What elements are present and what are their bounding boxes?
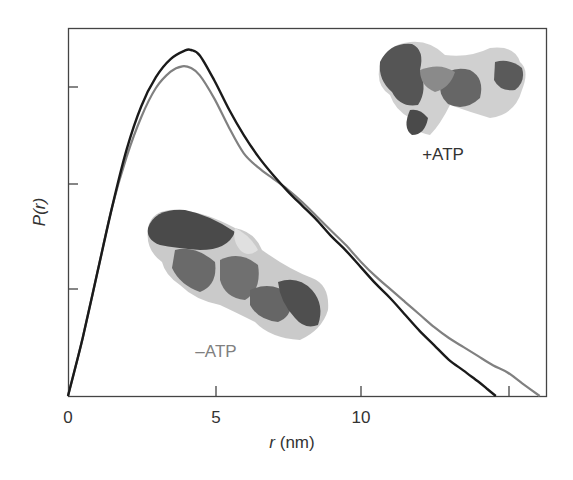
minus-atp-annotation: –ATP: [195, 342, 236, 361]
x-tick-label-0: 0: [63, 408, 72, 427]
minus-atp-molecule-image: [148, 210, 329, 340]
y-axis-ticks: [68, 87, 78, 289]
x-axis-label: r (nm): [269, 433, 314, 452]
pr-distribution-chart: 0 5 10 r (nm) P(r) +ATP –ATP: [0, 0, 573, 480]
y-axis-label: P(r): [30, 198, 49, 226]
plus-atp-annotation: +ATP: [422, 145, 464, 164]
x-axis-label-unit: (nm): [275, 433, 315, 452]
plus-atp-molecule-image: [379, 42, 526, 135]
x-tick-label-5: 5: [211, 408, 220, 427]
x-axis-ticks: [216, 386, 509, 396]
x-tick-label-10: 10: [352, 408, 371, 427]
